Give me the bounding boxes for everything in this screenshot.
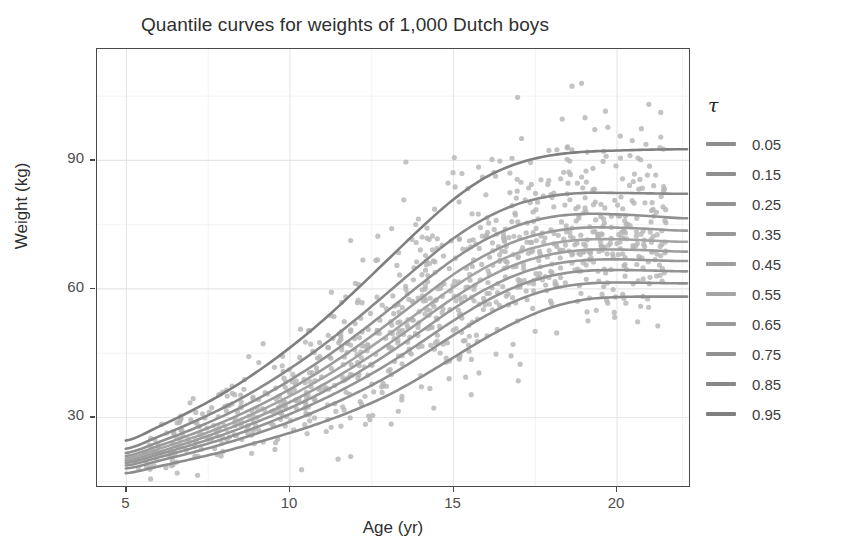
y-axis-title: Weight (kg) [12,106,32,306]
legend-key-icon [706,202,736,206]
legend-key-icon [706,382,736,386]
legend-item-0-75[interactable]: 0.75 [706,339,832,369]
legend-item-0-15[interactable]: 0.15 [706,159,832,189]
y-tick-label-90: 90 [38,149,84,166]
legend-key-icon [706,142,736,146]
quantile-curves-figure: Quantile curves for weights of 1,000 Dut… [0,0,841,558]
plot-canvas [97,49,689,486]
legend-item-label: 0.15 [752,166,781,183]
x-tick-label-5: 5 [105,494,145,511]
legend-item-label: 0.95 [752,406,781,423]
legend-item-label: 0.05 [752,136,781,153]
x-tick-mark-5 [125,487,126,492]
legend-item-label: 0.55 [752,286,781,303]
legend-key-icon [706,172,736,176]
chart-title: Quantile curves for weights of 1,000 Dut… [0,14,690,36]
legend-item-0-85[interactable]: 0.85 [706,369,832,399]
x-tick-mark-10 [289,487,290,492]
legend-key-icon [706,352,736,356]
legend-item-0-55[interactable]: 0.55 [706,279,832,309]
legend-item-label: 0.75 [752,346,781,363]
minor-gridlines [97,49,689,486]
x-tick-label-10: 10 [269,494,309,511]
legend-item-0-95[interactable]: 0.95 [706,399,832,429]
y-tick-label-60: 60 [38,278,84,295]
legend-title: τ [708,96,832,115]
x-tick-label-20: 20 [596,494,636,511]
legend: τ 0.050.150.250.350.450.550.650.750.850.… [706,96,832,429]
quantile-curves [126,149,687,473]
legend-item-0-35[interactable]: 0.35 [706,219,832,249]
legend-item-0-25[interactable]: 0.25 [706,189,832,219]
plot-panel [96,48,690,487]
x-axis-title: Age (yr) [96,518,690,538]
legend-entries: 0.050.150.250.350.450.550.650.750.850.95 [706,129,832,429]
legend-item-label: 0.85 [752,376,781,393]
legend-item-label: 0.35 [752,226,781,243]
scatter-points [126,81,669,482]
legend-item-label: 0.25 [752,196,781,213]
major-gridlines [97,49,689,486]
legend-item-label: 0.65 [752,316,781,333]
y-tick-mark-90 [90,159,95,160]
x-tick-mark-20 [616,487,617,492]
legend-key-icon [706,262,736,266]
x-tick-mark-15 [453,487,454,492]
legend-item-0-05[interactable]: 0.05 [706,129,832,159]
y-tick-mark-30 [90,416,95,417]
legend-item-0-65[interactable]: 0.65 [706,309,832,339]
x-tick-label-15: 15 [433,494,473,511]
y-tick-label-30: 30 [38,406,84,423]
legend-key-icon [706,292,736,296]
y-tick-mark-60 [90,288,95,289]
legend-item-0-45[interactable]: 0.45 [706,249,832,279]
legend-key-icon [706,322,736,326]
legend-key-icon [706,412,736,416]
legend-key-icon [706,232,736,236]
legend-item-label: 0.45 [752,256,781,273]
